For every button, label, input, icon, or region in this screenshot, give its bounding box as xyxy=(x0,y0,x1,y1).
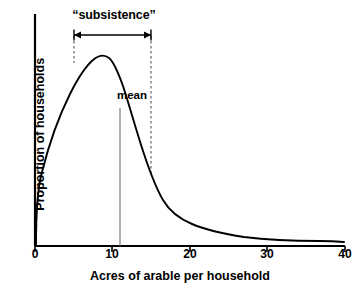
y-axis-title: Proportion of households xyxy=(34,14,47,254)
x-tick-label-20: 20 xyxy=(170,248,210,260)
x-tick-label-40: 40 xyxy=(325,248,360,260)
chart-figure: “subsistence” mean 0 10 20 30 40 Acres o… xyxy=(0,0,360,295)
x-tick-label-10: 10 xyxy=(92,248,132,260)
subsistence-range-arrow xyxy=(74,30,151,41)
mean-label: mean xyxy=(117,90,147,102)
distribution-curve xyxy=(36,56,344,246)
x-tick-label-30: 30 xyxy=(247,248,287,260)
x-axis-title: Acres of arable per household xyxy=(0,270,360,283)
